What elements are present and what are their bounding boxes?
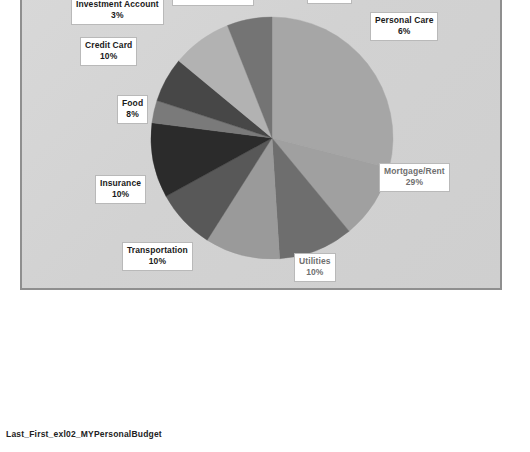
data-label-percent: 8%: [122, 109, 143, 120]
data-label-mortgage-rent[interactable]: Mortgage/Rent 29%: [379, 163, 450, 192]
data-label-name: Investment Account: [76, 0, 159, 10]
data-label-name: Food: [122, 98, 143, 109]
data-label-name: Insurance: [100, 178, 141, 189]
pie-chart-frame[interactable]: Giving/Donations 6% Clothing 8% Investme…: [20, 0, 502, 290]
data-label-name: Credit Card: [85, 40, 132, 51]
pie-chart-graphic[interactable]: [150, 16, 394, 260]
data-label-percent: 3%: [76, 10, 159, 21]
data-label-clothing[interactable]: Clothing 8%: [307, 0, 352, 4]
data-label-food[interactable]: Food 8%: [117, 95, 148, 124]
data-label-percent: 10%: [127, 256, 188, 267]
pie-slice-group: [151, 17, 393, 259]
data-label-percent: 6%: [177, 0, 249, 2]
data-label-percent: 10%: [299, 267, 331, 278]
data-label-name: Transportation: [127, 245, 188, 256]
data-label-name: Utilities: [299, 256, 331, 267]
data-label-percent: 10%: [85, 51, 132, 62]
worksheet-footer-caption: Last_First_exl02_MYPersonalBudget: [6, 429, 162, 439]
data-label-utilities[interactable]: Utilities 10%: [294, 253, 336, 282]
data-label-giving-donations[interactable]: Giving/Donations 6%: [172, 0, 254, 6]
data-label-percent: 10%: [100, 189, 141, 200]
data-label-credit-card[interactable]: Credit Card 10%: [80, 37, 137, 66]
data-label-name: Mortgage/Rent: [384, 166, 445, 177]
data-label-insurance[interactable]: Insurance 10%: [95, 175, 146, 204]
data-label-percent: 29%: [384, 177, 445, 188]
chart-plot-area[interactable]: Giving/Donations 6% Clothing 8% Investme…: [22, 0, 500, 288]
data-label-percent: 6%: [375, 26, 433, 37]
data-label-name: Personal Care: [375, 15, 433, 26]
data-label-transportation[interactable]: Transportation 10%: [122, 242, 193, 271]
data-label-personal-care[interactable]: Personal Care 6%: [370, 12, 438, 41]
pie-svg: [150, 16, 394, 260]
data-label-investment-account[interactable]: Investment Account 3%: [71, 0, 164, 25]
